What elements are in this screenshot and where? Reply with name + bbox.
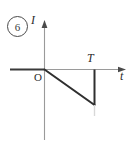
time-tick-label: T — [87, 52, 94, 64]
horizontal-axis-label: t — [120, 70, 123, 82]
curve-ramp-segment — [45, 70, 95, 106]
question-number-marker-icon: 6 — [7, 16, 28, 37]
origin-label: O — [34, 72, 42, 83]
question-number-text: 6 — [15, 21, 21, 33]
vertical-axis-arrow-icon — [42, 20, 48, 28]
vertical-axis-label: I — [31, 14, 35, 26]
current-time-graph-figure: 6 I O T t — [0, 0, 132, 144]
